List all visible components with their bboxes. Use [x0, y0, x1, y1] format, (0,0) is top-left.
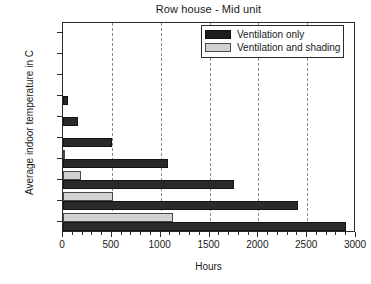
bar-ventilation-only [63, 138, 112, 147]
x-tick-minor [238, 232, 239, 235]
x-tick-minor [287, 232, 288, 235]
bar-row [63, 65, 355, 86]
x-tick-minor [248, 232, 249, 235]
x-tick-minor [218, 232, 219, 235]
y-tick-mark [57, 137, 62, 138]
x-tick-minor [169, 232, 170, 235]
legend-item: Ventilation and shading [205, 41, 340, 54]
bar-ventilation-and-shading [63, 171, 81, 180]
x-tick-label: 2000 [237, 239, 277, 250]
x-tick-minor [91, 232, 92, 235]
chart-legend: Ventilation onlyVentilation and shading [201, 25, 344, 58]
bar-row [63, 170, 355, 191]
x-tick-major [62, 232, 63, 237]
x-tick-label: 1500 [189, 239, 229, 250]
x-tick-major [111, 232, 112, 237]
x-tick-minor [228, 232, 229, 235]
x-tick-minor [326, 232, 327, 235]
bar-ventilation-only [63, 201, 298, 210]
bar-ventilation-and-shading [63, 150, 65, 159]
bar-row [63, 149, 355, 170]
x-tick-minor [296, 232, 297, 235]
bar-ventilation-only [63, 159, 168, 168]
x-tick-minor [72, 232, 73, 235]
x-tick-minor [189, 232, 190, 235]
legend-swatch-icon [205, 30, 231, 39]
x-tick-minor [82, 232, 83, 235]
x-tick-minor [277, 232, 278, 235]
bar-ventilation-and-shading [63, 213, 173, 222]
y-tick-mark [57, 74, 62, 75]
bar-ventilation-only [63, 180, 234, 189]
bar-ventilation-only [63, 222, 346, 231]
bar-row [63, 191, 355, 212]
x-tick-minor [121, 232, 122, 235]
x-tick-major [209, 232, 210, 237]
x-tick-label: 0 [42, 239, 82, 250]
bar-row [63, 86, 355, 107]
y-tick-mark [57, 221, 62, 222]
x-tick-minor [267, 232, 268, 235]
legend-item: Ventilation only [205, 28, 340, 41]
x-tick-minor [150, 232, 151, 235]
x-tick-minor [199, 232, 200, 235]
y-tick-mark [57, 53, 62, 54]
bar-row [63, 212, 355, 232]
legend-label: Ventilation and shading [237, 42, 340, 53]
x-tick-minor [335, 232, 336, 235]
legend-swatch-icon [205, 43, 231, 52]
y-tick-mark [57, 179, 62, 180]
x-tick-major [355, 232, 356, 237]
y-tick-mark [57, 116, 62, 117]
y-axis-label: Average indoor temperature in C [24, 38, 35, 208]
x-tick-minor [101, 232, 102, 235]
bar-row [63, 128, 355, 149]
y-tick-mark [57, 158, 62, 159]
legend-label: Ventilation only [237, 29, 304, 40]
chart-title: Row house - Mid unit [62, 3, 355, 15]
x-axis-label: Hours [62, 261, 355, 272]
x-tick-major [257, 232, 258, 237]
y-tick-mark [57, 200, 62, 201]
x-tick-minor [140, 232, 141, 235]
x-tick-label: 500 [91, 239, 131, 250]
bar-row [63, 107, 355, 128]
x-tick-major [160, 232, 161, 237]
y-tick-mark [57, 95, 62, 96]
y-tick-mark [57, 32, 62, 33]
x-tick-label: 1000 [140, 239, 180, 250]
bar-ventilation-and-shading [63, 192, 113, 201]
x-tick-minor [130, 232, 131, 235]
x-tick-label: 3000 [335, 239, 371, 250]
x-tick-minor [179, 232, 180, 235]
chart-figure: Row house - Mid unit Average indoor temp… [0, 0, 371, 284]
x-tick-label: 2500 [286, 239, 326, 250]
x-tick-minor [345, 232, 346, 235]
bar-ventilation-only [63, 117, 78, 126]
x-tick-minor [316, 232, 317, 235]
x-tick-major [306, 232, 307, 237]
bar-ventilation-only [63, 96, 68, 105]
